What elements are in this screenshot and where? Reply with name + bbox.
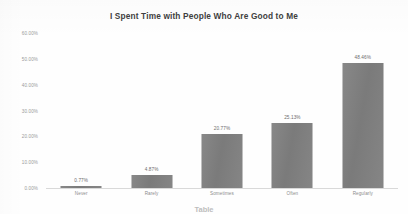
y-axis-tick-label: 30.00% — [0, 108, 38, 113]
bar-group: 0.77% — [46, 33, 116, 188]
bar[interactable] — [272, 123, 313, 188]
chart-figure: I Spent Time with People Who Are Good to… — [0, 0, 408, 214]
y-axis: 0.00%10.00%20.00%30.00%40.00%50.00%60.00… — [0, 33, 44, 188]
y-axis-tick-label: 10.00% — [0, 160, 38, 165]
y-axis-tick-label: 0.00% — [0, 186, 38, 191]
x-axis-tick-label: Sometimes — [187, 191, 257, 196]
x-axis-tick-label: Rarely — [116, 191, 186, 196]
x-axis-tick-label: Often — [257, 191, 327, 196]
bar-value-label: 48.46% — [355, 55, 372, 60]
bar-value-label: 0.77% — [74, 178, 88, 183]
bar[interactable] — [201, 134, 242, 188]
bar-series: 0.77%4.87%20.77%25.13%48.46% — [46, 33, 398, 188]
y-axis-tick-label: 40.00% — [0, 82, 38, 87]
figure-caption: Table — [0, 205, 408, 214]
y-axis-tick-label: 60.00% — [0, 31, 38, 36]
bar[interactable] — [131, 175, 172, 188]
x-axis-tick-label: Regularly — [328, 191, 398, 196]
y-axis-tick-label: 20.00% — [0, 134, 38, 139]
bar-value-label: 20.77% — [214, 126, 231, 131]
bar[interactable] — [342, 63, 383, 188]
bar-value-label: 4.87% — [145, 167, 159, 172]
x-axis-tick-label: Never — [46, 191, 116, 196]
bar-group: 25.13% — [257, 33, 327, 188]
bar-group: 48.46% — [328, 33, 398, 188]
bar-value-label: 25.13% — [284, 115, 301, 120]
bar-group: 20.77% — [187, 33, 257, 188]
x-axis: NeverRarelySometimesOftenRegularly — [46, 191, 398, 202]
bar-group: 4.87% — [116, 33, 186, 188]
x-axis-line — [46, 188, 398, 189]
chart-title: I Spent Time with People Who Are Good to… — [0, 11, 408, 21]
y-axis-tick-label: 50.00% — [0, 56, 38, 61]
